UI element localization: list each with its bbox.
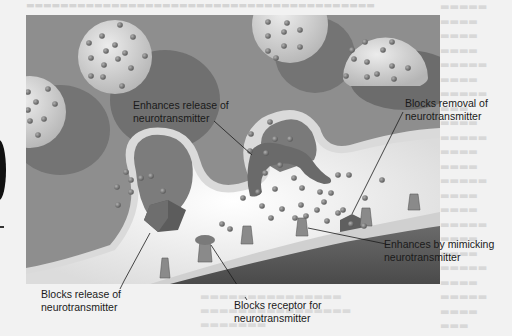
receptor [241,226,253,244]
label-blocks-removal: Blocks removal of neurotransmitter [405,97,488,123]
label-blocks-receptor: Blocks receptor for neurotransmitter [234,299,322,325]
label-line: Enhances release of [133,99,229,112]
label-line: neurotransmitter [234,312,322,325]
label-blocks-release: Blocks release of neurotransmitter [41,288,121,314]
label-enhances-release: Enhances release of neurotransmitter [133,99,229,125]
label-line: neurotransmitter [133,112,229,125]
label-line: neurotransmitter [405,110,488,123]
label-enhances-mimicking: Enhances by mimicking neurotransmitter [384,238,494,264]
receptor [360,208,372,226]
label-line: Blocks receptor for [234,299,322,312]
label-line: neurotransmitter [41,301,121,314]
label-line: Blocks release of [41,288,121,301]
label-line: neurotransmitter [384,251,494,264]
label-line: Blocks removal of [405,97,488,110]
receptor-blocker-drug [195,235,215,245]
receptor [296,218,308,236]
synapse-diagram [0,0,512,336]
receptor [408,194,420,210]
receptor [160,258,170,278]
label-line: Enhances by mimicking [384,238,494,251]
